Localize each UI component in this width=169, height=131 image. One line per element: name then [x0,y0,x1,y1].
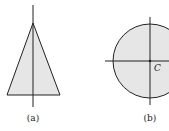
caption-a: (a) [27,113,39,123]
caption-b: (b) [144,113,157,123]
center-label: C [154,63,161,73]
center-point [149,60,152,63]
figure-b-circle: C (b) [105,17,169,123]
diagram-canvas: (a) C (b) [0,0,169,131]
figure-a-triangle: (a) [7,5,60,123]
